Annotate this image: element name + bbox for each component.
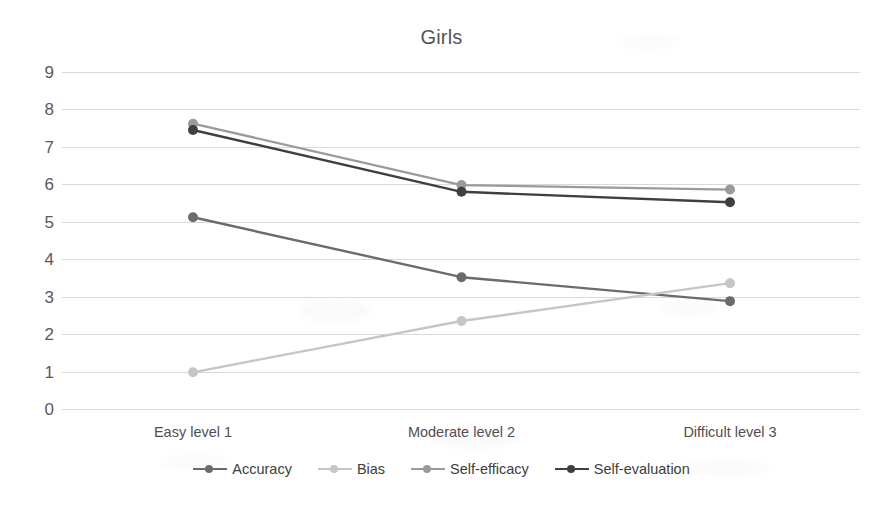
data-point-marker	[725, 197, 735, 207]
legend-marker-icon	[193, 463, 227, 475]
legend-label: Self-efficacy	[450, 461, 529, 477]
series-line	[193, 124, 730, 190]
data-point-marker	[457, 187, 467, 197]
legend-item[interactable]: Self-evaluation	[555, 461, 690, 477]
data-point-marker	[725, 185, 735, 195]
data-point-marker	[188, 367, 198, 377]
legend-item[interactable]: Accuracy	[193, 461, 292, 477]
data-point-marker	[725, 296, 735, 306]
data-point-marker	[188, 125, 198, 135]
legend-label: Accuracy	[232, 461, 292, 477]
legend-marker-icon	[411, 463, 445, 475]
legend-label: Self-evaluation	[594, 461, 690, 477]
data-point-marker	[457, 316, 467, 326]
data-point-marker	[725, 278, 735, 288]
legend-item[interactable]: Bias	[318, 461, 385, 477]
series-line	[193, 217, 730, 301]
chart-legend: AccuracyBiasSelf-efficacySelf-evaluation	[0, 461, 883, 477]
legend-item[interactable]: Self-efficacy	[411, 461, 529, 477]
data-point-marker	[457, 272, 467, 282]
series-line	[193, 283, 730, 372]
series-lines	[0, 0, 883, 515]
legend-marker-icon	[318, 463, 352, 475]
data-point-marker	[188, 212, 198, 222]
chart-container: Girls 9876543210 Easy level 1Moderate le…	[0, 0, 883, 515]
legend-label: Bias	[357, 461, 385, 477]
legend-marker-icon	[555, 463, 589, 475]
